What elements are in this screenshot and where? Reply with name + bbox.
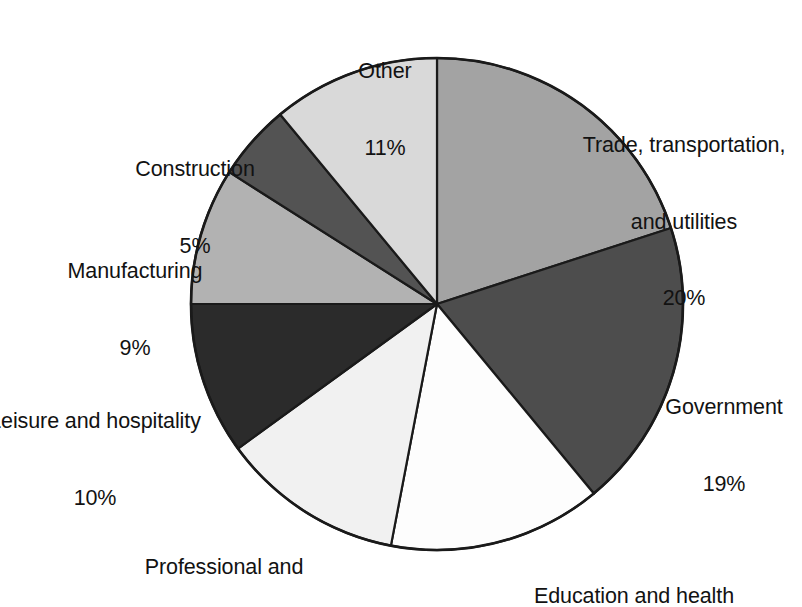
slice-label-leisure-name: Leisure and hospitality bbox=[0, 409, 204, 435]
slice-label-trade-name-line1: Trade, transportation, bbox=[568, 133, 800, 159]
slice-label-construction-name: Construction bbox=[112, 157, 278, 183]
slice-label-trade-name-line2: and utilities bbox=[568, 210, 800, 236]
slice-label-other: Other 11% bbox=[296, 8, 474, 212]
slice-label-government: Government 19% bbox=[648, 344, 800, 548]
slice-label-construction-value: 5% bbox=[112, 234, 278, 260]
pie-chart-figure: Other 11% Trade, transportation, and uti… bbox=[0, 0, 802, 607]
slice-label-other-name: Other bbox=[296, 59, 474, 85]
slice-label-other-value: 11% bbox=[296, 136, 474, 162]
slice-label-education: Education and health services 14% bbox=[522, 533, 746, 607]
slice-label-leisure-value: 10% bbox=[0, 486, 204, 512]
slice-label-government-name: Government bbox=[648, 395, 800, 421]
slice-label-government-value: 19% bbox=[648, 472, 800, 498]
slice-label-trade: Trade, transportation, and utilities 20% bbox=[568, 82, 800, 363]
slice-label-education-name-line1: Education and health bbox=[522, 584, 746, 607]
slice-label-construction: Construction 5% bbox=[112, 106, 278, 310]
slice-label-manufacturing-value: 9% bbox=[52, 336, 218, 362]
slice-label-trade-value: 20% bbox=[568, 286, 800, 312]
